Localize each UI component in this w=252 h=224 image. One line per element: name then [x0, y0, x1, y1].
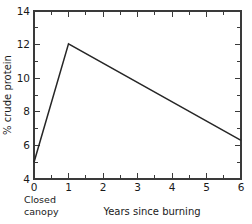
x-tick-label: 6 — [238, 181, 245, 193]
x-axis-title: Years since burning — [102, 206, 200, 217]
y-axis-minor-ticks — [34, 28, 38, 162]
crude-protein-line-chart: 468101214 0123456 % crude protein Years … — [0, 0, 252, 224]
data-series-line — [34, 44, 241, 162]
y-axis-tick-labels: 468101214 — [17, 5, 31, 185]
x-tick-label: 1 — [65, 181, 72, 193]
closed-canopy-note-line2: canopy — [24, 206, 59, 217]
x-tick-label: 2 — [100, 181, 107, 193]
y-tick-label: 4 — [23, 173, 30, 185]
x-tick-label: 4 — [169, 181, 176, 193]
x-tick-label: 3 — [134, 181, 141, 193]
y-axis-title: % crude protein — [2, 55, 13, 135]
plot-frame — [34, 11, 241, 179]
y-tick-label: 6 — [23, 139, 30, 151]
right-axis-ticks — [235, 28, 241, 162]
closed-canopy-note-line1: Closed — [24, 194, 56, 205]
x-tick-label: 0 — [31, 181, 38, 193]
y-tick-label: 14 — [17, 5, 31, 17]
x-axis-tick-labels: 0123456 — [31, 181, 245, 193]
y-tick-label: 12 — [17, 38, 30, 50]
x-axis-major-ticks — [34, 173, 241, 179]
y-tick-label: 10 — [17, 72, 30, 84]
x-tick-label: 5 — [203, 181, 210, 193]
top-axis-ticks — [51, 11, 224, 17]
y-tick-label: 8 — [23, 105, 30, 117]
chart-figure: 468101214 0123456 % crude protein Years … — [0, 0, 252, 224]
